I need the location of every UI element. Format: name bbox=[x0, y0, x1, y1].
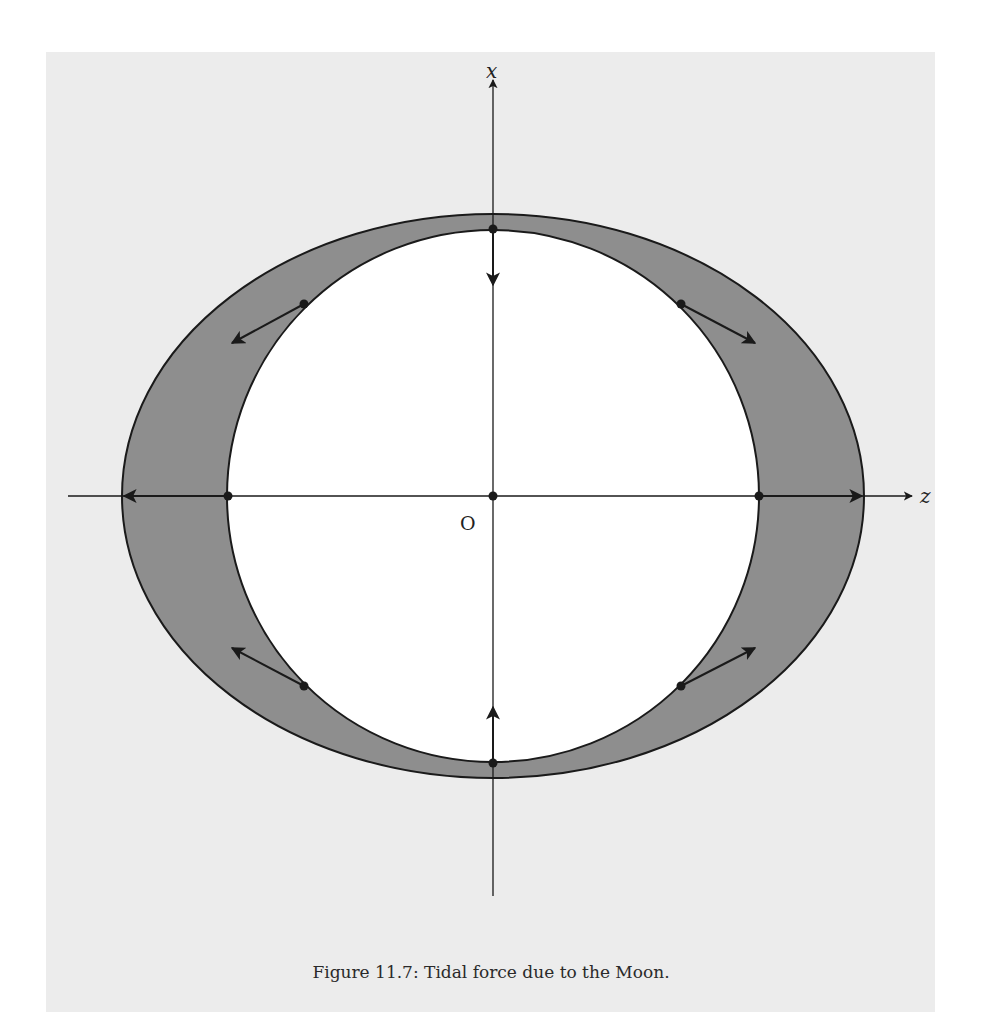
point-origin bbox=[489, 492, 498, 501]
point-bottom bbox=[489, 759, 498, 768]
point-right bbox=[755, 492, 764, 501]
z-axis-label: z bbox=[919, 484, 931, 508]
point-top bbox=[489, 225, 498, 234]
origin-label: O bbox=[460, 512, 476, 534]
figure-caption: Figure 11.7: Tidal force due to the Moon… bbox=[0, 962, 982, 982]
point-left bbox=[224, 492, 233, 501]
point-upper-right bbox=[677, 300, 686, 309]
point-upper-left bbox=[300, 300, 309, 309]
point-lower-left bbox=[300, 682, 309, 691]
x-axis-label: x bbox=[486, 59, 497, 83]
tidal-force-diagram: x z O bbox=[0, 0, 982, 1028]
point-lower-right bbox=[677, 682, 686, 691]
